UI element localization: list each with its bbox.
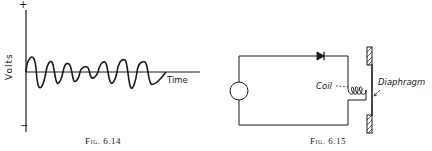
clamp-top: [367, 47, 372, 65]
diaphragm-label: Diaphragm: [378, 77, 425, 87]
x-axis-label: Time: [167, 75, 188, 85]
coil-label: Coil: [316, 81, 332, 91]
fig-6-14-graph: [26, 10, 200, 132]
y-axis-minus-sign: −: [20, 120, 28, 131]
clamp-bottom: [367, 115, 372, 133]
coil-icon: [348, 87, 366, 96]
diode-icon: [317, 52, 324, 60]
fig-6-15-circuit: [230, 47, 380, 133]
y-axis-plus-sign: +: [19, 0, 27, 10]
figure-caption: Fig. 6.15: [310, 136, 346, 146]
y-axis-label: Volts: [4, 53, 14, 80]
source-icon: [230, 82, 248, 100]
figure-caption: Fig. 6.14: [85, 136, 121, 146]
figures-canvas: [0, 0, 432, 151]
waveform: [26, 57, 166, 88]
